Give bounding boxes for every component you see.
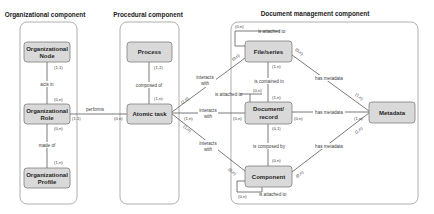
svg-text:Profile: Profile	[38, 179, 57, 185]
interacts-comp-label-line1: interacts	[199, 141, 217, 146]
interacts-doc-label-line2: with	[204, 114, 213, 119]
interacts-file-card-file: (0,n)	[231, 52, 241, 61]
composed-of-label: composed of	[136, 83, 163, 88]
file-metadata-card-file: (0,n)	[294, 47, 304, 57]
interacts-doc-card-doc: (0,n)	[233, 116, 242, 121]
interacts-doc-label-line1: interacts	[199, 108, 217, 113]
made-of-card-profile: (1,n)	[54, 160, 63, 165]
made-of-card-role: (0,n)	[54, 126, 63, 131]
document-management-component-title: Document management component	[261, 10, 371, 18]
performs-card-task: (0,n)	[114, 116, 123, 121]
interacts-file-label-line1: interacts	[196, 75, 214, 80]
entity-organizational-role[interactable]: Organizational Role	[24, 104, 70, 124]
svg-text:Node: Node	[40, 53, 56, 59]
entity-organizational-node[interactable]: Organizational Node	[24, 42, 70, 62]
interacts-comp-card-task: (1,n)	[182, 124, 192, 134]
svg-text:Process: Process	[138, 49, 162, 55]
svg-text:Atomic task: Atomic task	[132, 111, 167, 117]
composed-of-card-task: (1,n)	[154, 96, 163, 101]
composed-by-card-comp: (0,n)	[272, 158, 281, 163]
component-has-metadata-edge	[292, 113, 369, 172]
svg-text:Organizational: Organizational	[26, 46, 68, 52]
svg-text:record: record	[259, 114, 278, 120]
file-attached-label: is attached to	[258, 29, 286, 34]
svg-text:Metadata: Metadata	[379, 110, 406, 116]
procedural-component-title: Procedural component	[113, 11, 183, 19]
entity-organizational-profile[interactable]: Organizational Profile	[24, 168, 70, 188]
doc-metadata-card-doc: (0,n)	[294, 116, 303, 121]
file-metadata-label: has metadata	[315, 76, 343, 81]
organizational-component-title: Organizational component	[5, 11, 86, 19]
entity-component[interactable]: Component	[245, 166, 292, 187]
comp-metadata-card-comp: (0,n)	[295, 169, 305, 179]
file-attached-card: (0,n)	[235, 24, 244, 29]
performs-card-role: (1,1)	[72, 116, 81, 121]
comp-metadata-card-meta: (1,n)	[354, 125, 364, 135]
entity-document-record[interactable]: Document/ record	[245, 102, 292, 124]
svg-text:Component: Component	[252, 174, 285, 180]
doc-attached-loop	[250, 94, 262, 102]
interacts-file-card-task: (1,n)	[180, 95, 190, 104]
doc-metadata-label: has metadata	[315, 110, 343, 115]
composed-by-card-doc: (0,1)	[272, 126, 281, 131]
comp-attached-card: (0,n)	[238, 194, 247, 199]
file-has-metadata-edge	[292, 55, 369, 111]
doc-attached-card: (0,n)	[253, 88, 262, 93]
entity-atomic-task[interactable]: Atomic task	[127, 104, 172, 124]
acts-in-label: acts in	[40, 82, 54, 87]
interacts-comp-label-line2: with	[204, 147, 213, 152]
entity-metadata[interactable]: Metadata	[369, 102, 415, 123]
contained-in-card-doc: (1,n)	[272, 95, 281, 100]
svg-text:File/series: File/series	[254, 49, 284, 55]
contained-in-label: is contained in	[254, 79, 284, 84]
doc-attached-label: is attached to	[215, 92, 243, 97]
interacts-doc-card-task: (1,n)	[184, 116, 193, 121]
composed-by-label: is composed by	[253, 144, 286, 149]
entity-process[interactable]: Process	[127, 42, 172, 62]
file-metadata-card-meta: (1,n)	[354, 92, 364, 102]
svg-text:Organizational: Organizational	[26, 172, 68, 178]
interacts-comp-card-comp: (0,n)	[227, 167, 237, 177]
performs-label: performs	[86, 107, 105, 112]
acts-in-card-node: (1,1)	[54, 65, 63, 70]
interacts-file-label-line2: with	[201, 81, 210, 86]
acts-in-card-role: (0,n)	[54, 97, 63, 102]
composed-of-card-process: (1,1)	[154, 65, 163, 70]
data-model-diagram: Organizational component Procedural comp…	[0, 0, 434, 214]
doc-metadata-card-meta: (1,n)	[354, 116, 363, 121]
svg-text:Organizational: Organizational	[26, 108, 68, 114]
contained-in-card-file: (1,n)	[272, 64, 281, 69]
comp-attached-label: is attached to	[259, 192, 287, 197]
made-of-label: made of	[39, 143, 56, 148]
svg-text:Document/: Document/	[253, 106, 284, 112]
svg-text:Role: Role	[40, 115, 54, 121]
comp-metadata-label: has metadata	[315, 144, 343, 149]
entity-file-series[interactable]: File/series	[245, 41, 292, 62]
